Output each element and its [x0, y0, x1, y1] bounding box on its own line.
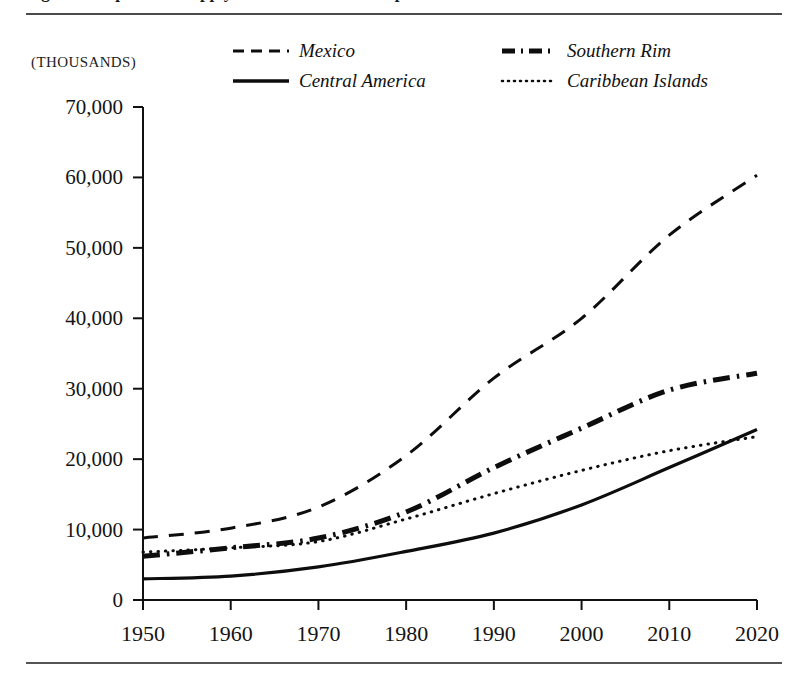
y-tick-label: 30,000 — [65, 377, 123, 401]
chart-axes — [133, 107, 757, 610]
y-tick-label: 70,000 — [65, 95, 123, 119]
chart-svg: 010,00020,00030,00040,00050,00060,00070,… — [0, 0, 809, 691]
x-tick-label: 2000 — [560, 621, 604, 646]
y-axis-tick-labels: 010,00020,00030,00040,00050,00060,00070,… — [65, 95, 123, 612]
y-tick-label: 10,000 — [65, 518, 123, 542]
chart-series — [143, 175, 757, 579]
y-tick-label: 40,000 — [65, 306, 123, 330]
x-tick-label: 2020 — [735, 621, 779, 646]
x-tick-label: 1950 — [121, 621, 165, 646]
figure-container: Figure 1. Population Supply of the Weste… — [0, 0, 809, 691]
x-axis-tick-labels: 19501960197019801990200020102020 — [121, 621, 779, 646]
y-tick-label: 60,000 — [65, 165, 123, 189]
y-tick-label: 20,000 — [65, 447, 123, 471]
figure-bottom-rule — [26, 662, 782, 664]
y-tick-label: 0 — [113, 588, 124, 612]
x-tick-label: 1970 — [296, 621, 340, 646]
x-tick-label: 1990 — [472, 621, 516, 646]
chart-plot-area: 010,00020,00030,00040,00050,00060,00070,… — [0, 0, 809, 691]
y-tick-label: 50,000 — [65, 236, 123, 260]
series-line-mexico — [143, 175, 757, 538]
x-tick-label: 1960 — [209, 621, 253, 646]
x-tick-label: 2010 — [647, 621, 691, 646]
x-tick-label: 1980 — [384, 621, 428, 646]
series-line-caribbean-islands — [143, 437, 757, 553]
